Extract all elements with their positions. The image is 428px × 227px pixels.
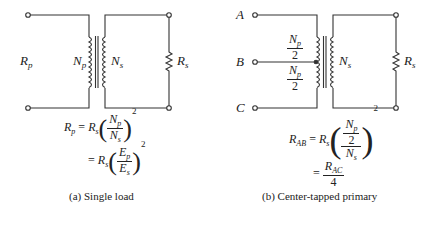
figure-b-circuit [253,13,399,111]
label-np-half-bottom: Np2 [287,64,303,92]
label-rp: Rp [20,54,32,70]
terminal-top-left [26,13,31,18]
label-rs: Rs [177,54,188,70]
terminal-top-right-b [394,13,399,18]
figure-a-circuit [26,13,172,111]
secondary-bottom-wire [105,88,169,108]
resistor-rs-b-icon [393,17,399,106]
terminal-bottom-left [26,106,31,111]
terminal-b [253,60,258,65]
label-rs-b: Rs [404,54,415,70]
primary-top-wire [30,15,89,37]
terminal-top-right [167,13,172,18]
label-np-half-top: Np2 [287,33,303,61]
equation-rp-turns: Rp = Rs(NpNs)2 [64,113,136,144]
equation-rab: RAB = Rs(Np2Ns)2 [289,118,378,162]
label-terminal-c: C [236,101,245,114]
label-ns-b: Ns [339,54,351,70]
caption-b: (b) Center-tapped primary [262,190,377,202]
terminal-bottom-right [167,106,172,111]
primary-coil-icon [89,37,92,88]
secondary-coil-b-icon [331,37,334,88]
equation-rp-voltage: = Rs(EpEs)2 [88,146,145,177]
resistor-rs-icon [166,17,172,106]
secondary-top-wire [105,15,169,37]
terminal-bottom-right-b [394,106,399,111]
primary-bottom-wire [30,88,89,108]
primary-coil-b-icon [317,37,320,88]
label-terminal-b: B [236,55,244,68]
secondary-coil-icon [103,37,106,88]
secondary-bottom-wire-b [333,88,396,108]
label-ns: Ns [111,54,123,70]
label-np: Np [73,54,86,70]
label-terminal-a: A [236,8,244,21]
caption-a: (a) Single load [69,190,134,202]
terminal-c [253,106,258,111]
equation-rac: = RAC4 [313,160,344,188]
secondary-top-wire-b [333,15,396,37]
terminal-a [253,13,258,18]
